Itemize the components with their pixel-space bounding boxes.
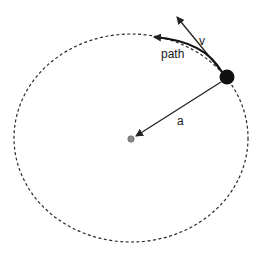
velocity-label: v bbox=[199, 34, 205, 48]
diagram-svg: v path a bbox=[0, 0, 257, 260]
ball bbox=[220, 70, 235, 85]
center-point bbox=[128, 136, 134, 142]
path-label: path bbox=[161, 47, 184, 61]
acceleration-label: a bbox=[177, 114, 184, 128]
circular-motion-diagram: v path a bbox=[0, 0, 257, 260]
